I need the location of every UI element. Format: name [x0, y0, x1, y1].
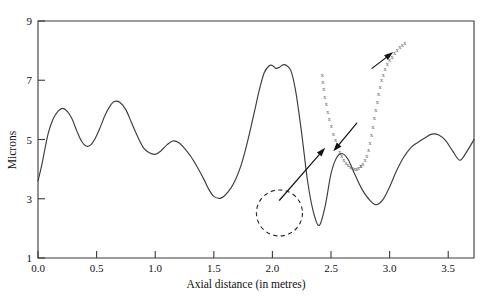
line-chart: 0.00.51.01.52.02.53.03.5 13579 xxxxxxxxx…	[0, 0, 492, 297]
y-axis-title: Microns	[6, 130, 18, 169]
x-tick-label: 3.5	[441, 262, 455, 274]
x-tick-label: 2.0	[266, 262, 280, 274]
y-tick-label: 9	[27, 15, 33, 27]
y-tick-label: 7	[27, 74, 33, 86]
y-tick-label: 1	[27, 252, 33, 264]
x-tick-label: 1.0	[148, 262, 162, 274]
y-tick-label: 3	[27, 193, 33, 205]
chart-page: 0.00.51.01.52.02.53.03.5 13579 xxxxxxxxx…	[0, 0, 492, 297]
x-tick-label: 2.5	[324, 262, 338, 274]
x-tick-label: 0.0	[31, 262, 45, 274]
x-tick-label: 1.5	[207, 262, 221, 274]
y-tick-label: 5	[27, 134, 33, 146]
x-axis-title: Axial distance (in metres)	[186, 278, 305, 291]
x-tick-label: 0.5	[90, 262, 104, 274]
x-tick-label: 3.0	[383, 262, 397, 274]
